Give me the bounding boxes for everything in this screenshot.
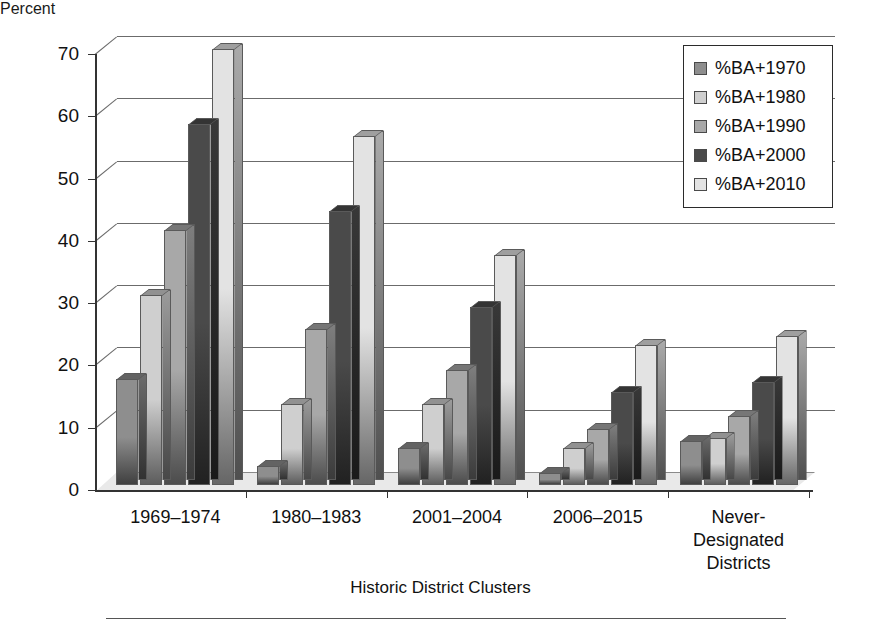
bar-side bbox=[726, 433, 735, 480]
bar-side bbox=[585, 443, 594, 480]
x-tick-label: Never- Designated Districts bbox=[648, 506, 829, 575]
y-tick-mark bbox=[88, 365, 95, 366]
bar-side bbox=[234, 44, 243, 480]
bar-side bbox=[210, 119, 219, 480]
legend-swatch-icon bbox=[694, 62, 707, 75]
legend-label: %BA+2010 bbox=[715, 174, 806, 195]
y-axis-title: Percent bbox=[0, 0, 881, 18]
bar-side bbox=[162, 290, 171, 480]
bar bbox=[680, 441, 702, 485]
bar-side bbox=[303, 399, 312, 480]
x-tick-mark bbox=[668, 490, 669, 498]
legend-swatch-icon bbox=[694, 91, 707, 104]
legend-swatch-icon bbox=[694, 149, 707, 162]
y-tick-label: 10 bbox=[33, 418, 79, 437]
gridline-connector bbox=[95, 98, 118, 117]
x-tick-mark bbox=[527, 490, 528, 498]
bar-side bbox=[516, 250, 525, 480]
gridline-connector bbox=[95, 161, 118, 180]
gridline-connector bbox=[95, 36, 118, 55]
bar-side bbox=[633, 387, 642, 480]
chart-legend: %BA+1970%BA+1980%BA+1990%BA+2000%BA+2010 bbox=[683, 45, 833, 208]
bar-side bbox=[138, 374, 147, 480]
x-tick-mark bbox=[387, 490, 388, 498]
legend-swatch-icon bbox=[694, 120, 707, 133]
y-tick-label: 30 bbox=[33, 293, 79, 312]
gridline bbox=[117, 36, 835, 37]
gridline-connector bbox=[95, 223, 118, 242]
bar-side bbox=[327, 324, 336, 480]
legend-item[interactable]: %BA+2000 bbox=[694, 141, 826, 170]
x-tick-mark bbox=[246, 490, 247, 498]
y-tick-mark bbox=[88, 490, 95, 491]
y-tick-label: 70 bbox=[33, 44, 79, 63]
bar-side bbox=[375, 131, 384, 480]
bar-side bbox=[186, 225, 195, 480]
gridline-connector bbox=[95, 348, 118, 367]
bar-side bbox=[750, 411, 759, 480]
bar bbox=[398, 448, 420, 485]
bar-side bbox=[657, 340, 666, 480]
y-tick-label: 0 bbox=[33, 480, 79, 499]
chart-figure: Percent 0102030405060701969–19741980–198… bbox=[0, 0, 881, 636]
legend-label: %BA+2000 bbox=[715, 145, 806, 166]
bar-side bbox=[609, 424, 618, 480]
legend-label: %BA+1990 bbox=[715, 116, 806, 137]
y-tick-label: 40 bbox=[33, 231, 79, 250]
y-tick-label: 20 bbox=[33, 355, 79, 374]
bottom-divider bbox=[106, 618, 786, 619]
legend-swatch-icon bbox=[694, 178, 707, 191]
bar-side bbox=[774, 377, 783, 480]
y-axis-line bbox=[95, 54, 97, 490]
bar bbox=[539, 473, 561, 485]
bar bbox=[116, 379, 138, 485]
bar-face bbox=[116, 379, 138, 485]
bar-face bbox=[398, 448, 420, 485]
x-axis-title: Historic District Clusters bbox=[0, 578, 881, 598]
legend-label: %BA+1980 bbox=[715, 87, 806, 108]
y-tick-label: 60 bbox=[33, 106, 79, 125]
bar bbox=[257, 466, 279, 485]
bar-side bbox=[444, 399, 453, 480]
bar-side bbox=[468, 365, 477, 480]
bar-side bbox=[702, 436, 711, 480]
bar-side bbox=[492, 302, 501, 480]
legend-label: %BA+1970 bbox=[715, 58, 806, 79]
x-axis-line bbox=[95, 490, 813, 492]
gridline-connector bbox=[95, 410, 118, 429]
legend-item[interactable]: %BA+1990 bbox=[694, 112, 826, 141]
bar-face bbox=[257, 466, 279, 485]
x-tick-mark bbox=[809, 490, 810, 498]
legend-item[interactable]: %BA+1980 bbox=[694, 83, 826, 112]
bar-face bbox=[539, 473, 561, 485]
bar-face bbox=[680, 441, 702, 485]
legend-item[interactable]: %BA+2010 bbox=[694, 170, 826, 199]
y-tick-label: 50 bbox=[33, 169, 79, 188]
bar-side bbox=[420, 443, 429, 480]
bar-side bbox=[351, 206, 360, 480]
bar-side bbox=[798, 331, 807, 480]
gridline-connector bbox=[95, 285, 118, 304]
legend-item[interactable]: %BA+1970 bbox=[694, 54, 826, 83]
